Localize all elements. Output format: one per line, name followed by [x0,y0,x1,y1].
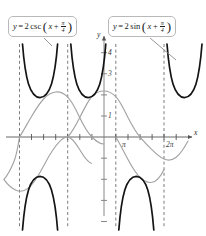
sin-open-paren: ( [142,22,146,31]
sin-function-name: sin [130,22,140,31]
csc-coefficient: 2 [25,22,29,31]
csc-fraction-denominator: 4 [61,26,66,33]
csc-lhs: y [13,22,17,31]
figure-canvas: y x 4 3 1 π 2π y = 2 csc ( x + π 4 ) y =… [0,0,206,236]
sin-fraction-denominator: 4 [160,26,165,33]
x-axis [6,134,192,140]
csc-open-paren: ( [43,22,47,31]
y-axis-label: y [97,30,100,39]
sin-plus-sign: + [153,22,158,31]
csc-close-paren: ) [68,22,72,31]
sin-lhs: y [113,22,117,31]
x-tick-label-pi: π [122,140,126,149]
y-tick-label-4: 4 [108,48,112,57]
sin-close-paren: ) [167,22,171,31]
x-tick-label-2pi: 2π [166,140,174,149]
y-tick-label-3: 3 [108,69,112,78]
equation-callout-sine[interactable]: y = 2 sin ( x + π 4 ) [108,16,176,37]
csc-plus-sign: + [54,22,59,31]
csc-equals: = [18,22,23,31]
equation-callout-cosecant[interactable]: y = 2 csc ( x + π 4 ) [8,16,77,37]
csc-argument-variable: x [49,22,53,31]
x-axis-label: x [194,128,197,137]
sin-fraction: π 4 [160,20,165,33]
csc-function-name: csc [30,22,41,31]
sin-argument-variable: x [148,22,152,31]
sin-coefficient: 2 [125,22,129,31]
sine-curve [4,91,188,191]
csc-fraction: π 4 [61,20,66,33]
sin-equals: = [118,22,123,31]
y-tick-label-1: 1 [108,111,112,120]
